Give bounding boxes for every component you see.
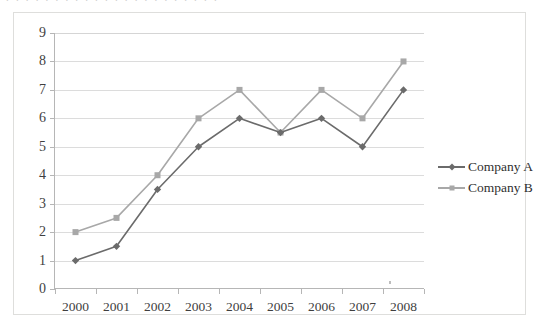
legend-square-icon — [449, 185, 454, 190]
clipped-text-sliver: . . . . . . . . . . . . . . . . . . . . … — [0, 0, 545, 6]
x-axis-tick-label: 2001 — [103, 300, 130, 314]
plot-area: 0123456789 20002001200220032004200520062… — [55, 33, 424, 289]
chart-frame: 0123456789 20002001200220032004200520062… — [13, 12, 526, 315]
data-point-marker — [401, 58, 407, 64]
data-point-marker — [114, 215, 120, 221]
x-axis-tick — [178, 289, 179, 294]
y-axis-tick-label: 3 — [39, 197, 46, 211]
y-axis-tick-label: 1 — [39, 254, 46, 268]
x-axis-tick — [219, 289, 220, 294]
y-axis-tick-label: 5 — [39, 140, 46, 154]
series-layer — [55, 33, 424, 289]
data-point-marker — [360, 115, 366, 121]
y-axis-tick-label: 9 — [39, 26, 46, 40]
x-axis-tick-label: 2007 — [349, 300, 376, 314]
data-point-marker — [319, 87, 325, 93]
y-axis-tick-label: 2 — [39, 225, 46, 239]
chart-legend: Company ACompany B — [438, 156, 534, 198]
legend-item-company-b[interactable]: Company B — [438, 177, 534, 198]
legend-item-company-a[interactable]: Company A — [438, 156, 534, 177]
x-axis-tick — [96, 289, 97, 294]
x-axis-tick — [342, 289, 343, 294]
data-point-marker — [237, 87, 243, 93]
x-axis-tick — [137, 289, 138, 294]
legend-marker-icon — [438, 161, 465, 173]
legend-label: Company B — [468, 181, 533, 195]
x-axis-tick — [424, 289, 425, 294]
x-axis-tick — [55, 289, 56, 294]
legend-diamond-icon — [448, 163, 455, 170]
x-axis-tick-label: 2008 — [390, 300, 417, 314]
y-axis-tick-label: 8 — [39, 54, 46, 68]
y-axis-tick-label: 0 — [39, 282, 46, 296]
x-axis-tick — [301, 289, 302, 294]
legend-label: Company A — [468, 160, 533, 174]
x-axis-tick-label: 2005 — [267, 300, 294, 314]
x-axis-tick-label: 2002 — [144, 300, 171, 314]
y-axis-tick-label: 7 — [39, 83, 46, 97]
x-axis-tick-label: 2004 — [226, 300, 253, 314]
x-axis-tick — [260, 289, 261, 294]
x-axis-tick-label: 2000 — [62, 300, 89, 314]
stray-speck — [389, 281, 391, 284]
x-axis-tick — [383, 289, 384, 294]
x-axis-tick-label: 2006 — [308, 300, 335, 314]
data-point-marker — [196, 115, 202, 121]
data-point-marker — [73, 229, 79, 235]
clipped-text: . . . . . . . . . . . . . . . . . . . . … — [6, 0, 219, 3]
data-point-marker — [155, 172, 161, 178]
data-point-marker — [72, 257, 79, 264]
y-axis-tick-label: 4 — [39, 168, 46, 182]
legend-marker-icon — [438, 182, 465, 194]
y-axis-tick-label: 6 — [39, 111, 46, 125]
x-axis-tick-label: 2003 — [185, 300, 212, 314]
